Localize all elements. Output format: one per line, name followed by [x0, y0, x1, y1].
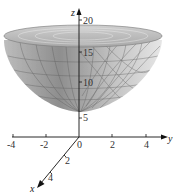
y-axis-label: y: [167, 133, 173, 144]
y-tick-label: -2: [40, 139, 48, 150]
x-tick-label: 2: [65, 155, 70, 166]
y-tick-label: 4: [144, 139, 149, 150]
z-tick-label: 10: [83, 77, 93, 88]
z-axis-arrow: [77, 8, 82, 15]
z-tick-label: 5: [83, 112, 88, 123]
x-tick-label: 4: [48, 172, 53, 183]
y-tick-label: 2: [110, 139, 115, 150]
y-axis-arrow: [161, 135, 168, 140]
z-tick-label: 15: [83, 47, 93, 58]
y-tick-label: -4: [7, 139, 15, 150]
z-axis-label: z: [70, 7, 75, 18]
y-tick-label: 0: [77, 139, 82, 150]
z-tick-label: 20: [83, 15, 93, 26]
x-axis-arrow: [37, 180, 45, 188]
surface-rim: [4, 25, 162, 47]
paraboloid-plot: -4 -2 0 2 4 y 5 10 15 20 z 2 4 x: [0, 0, 174, 196]
x-axis-label: x: [29, 183, 35, 194]
